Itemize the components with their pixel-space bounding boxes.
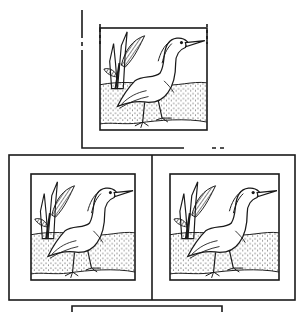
panel-top	[82, 10, 224, 148]
illustration-canvas	[0, 0, 303, 312]
panel-bottom-right	[170, 174, 279, 280]
panel-bottom-left	[31, 174, 135, 280]
panel-bottom-partial	[72, 306, 222, 312]
